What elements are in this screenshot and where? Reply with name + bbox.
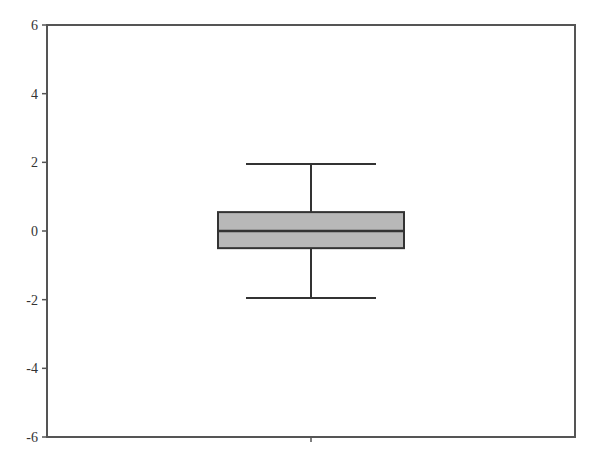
y-tick-label: 6 bbox=[31, 18, 38, 33]
box-series bbox=[218, 164, 404, 298]
y-tick-label: -4 bbox=[26, 361, 38, 376]
y-tick-label: 4 bbox=[31, 87, 38, 102]
box-plot-chart: 6420-2-4-6 bbox=[0, 0, 591, 463]
y-tick-label: 0 bbox=[31, 224, 38, 239]
y-tick-label: -2 bbox=[26, 293, 38, 308]
y-tick-label: 2 bbox=[31, 155, 38, 170]
y-tick-label: -6 bbox=[26, 430, 38, 445]
y-axis-ticks: 6420-2-4-6 bbox=[26, 18, 47, 445]
